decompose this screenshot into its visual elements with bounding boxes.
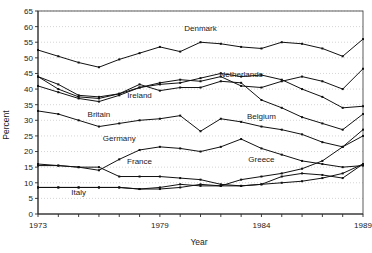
data-point [98,66,100,68]
x-axis-ticks: 1973197919841989 [29,214,372,230]
y-tick-label: 15 [24,163,33,172]
data-point [57,165,59,167]
x-axis-title: Year [190,237,207,247]
data-point [118,93,120,95]
data-point [321,163,323,165]
data-point [200,179,202,181]
data-point [281,172,283,174]
series-label-germany: Germany [103,134,136,143]
data-point [78,96,80,98]
data-point [362,113,364,115]
data-point [78,119,80,121]
series-label-greece: Greece [248,155,275,164]
data-point [260,147,262,149]
data-point [200,80,202,82]
series-greece [37,129,364,190]
data-point [342,146,344,148]
data-point [321,47,323,49]
data-point [37,110,39,112]
x-tick-label: 1979 [151,221,169,230]
data-point [37,85,39,87]
data-point [321,122,323,124]
data-point [159,83,161,85]
data-point [220,146,222,148]
data-point [301,76,303,78]
data-point [362,129,364,131]
data-point [37,49,39,51]
data-point [321,96,323,98]
data-point [98,166,100,168]
data-point [118,176,120,178]
data-point [342,107,344,109]
data-point [240,138,242,140]
data-point [200,87,202,89]
data-point [281,154,283,156]
data-point [57,113,59,115]
data-point [118,58,120,60]
data-point [321,141,323,143]
data-point [159,146,161,148]
data-point [179,186,181,188]
data-point [321,177,323,179]
data-point [342,88,344,90]
data-point [78,62,80,64]
series-label-belgium: Belgium [247,112,276,121]
data-point [281,182,283,184]
data-point [57,91,59,93]
data-point [159,188,161,190]
data-point [240,121,242,123]
data-point [342,55,344,57]
data-point [342,166,344,168]
data-point [301,160,303,162]
y-axis-title: Percent [1,110,11,140]
series-germany [37,138,364,171]
data-point [139,52,141,54]
series-line [38,77,363,130]
data-point [321,174,323,176]
data-point [321,160,323,162]
gridlines [38,11,363,198]
data-point [362,135,364,137]
data-point [139,149,141,151]
data-point [98,169,100,171]
y-tick-label: 25 [24,132,33,141]
data-point [179,177,181,179]
data-point [362,38,364,40]
data-point [179,82,181,84]
series-label-britain: Britain [88,110,111,119]
series-denmark [37,38,364,68]
y-tick-label: 30 [24,116,33,125]
data-point [98,101,100,103]
data-point [342,177,344,179]
data-point [220,185,222,187]
data-point [240,46,242,48]
line-chart: 05101520253035404550556065 1973197919841… [0,0,372,253]
series-label-netherlands: Netherlands [220,70,263,79]
series-label-italy: Italy [71,188,86,197]
data-point [179,87,181,89]
data-point [179,115,181,117]
y-tick-label: 45 [24,69,33,78]
data-point [342,172,344,174]
series-label-france: France [127,157,152,166]
data-point [118,158,120,160]
data-point [260,176,262,178]
data-point [362,163,364,165]
data-point [98,186,100,188]
data-point [37,76,39,78]
data-point [321,80,323,82]
data-point [342,129,344,131]
data-point [159,46,161,48]
series-britain [37,110,364,148]
series-label-ireland: Ireland [127,91,151,100]
data-point [139,83,141,85]
data-point [301,168,303,170]
data-point [240,179,242,181]
x-tick-label: 1984 [253,221,271,230]
data-point [362,105,364,107]
series-line [38,69,363,97]
data-point [159,176,161,178]
data-point [281,129,283,131]
x-tick-label: 1973 [29,221,47,230]
data-point [301,116,303,118]
